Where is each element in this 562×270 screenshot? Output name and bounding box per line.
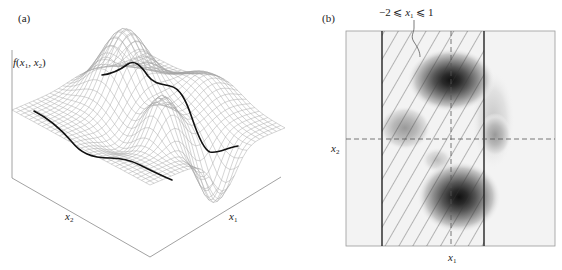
hatched-band [382, 31, 484, 246]
surface-plot-graphic [0, 0, 290, 270]
cross-section-curves [34, 63, 238, 181]
constraint-pre: −2 ⩽ [379, 6, 405, 18]
x2-sub-b: 2 [336, 148, 340, 156]
panel-b-tag: (b) [322, 13, 335, 24]
x1-sub-b: 1 [453, 257, 457, 265]
x1-axis-label-a: x1 [229, 211, 237, 224]
panel-a-surface-plot: (a) f(x1, x2) x2 x1 [0, 0, 290, 270]
z-label-close: ) [42, 56, 46, 68]
panel-b-contour-plot: (b) −2 ⩽ x1 ⩽ 1 x2 x1 [280, 0, 562, 270]
wireframe-mesh [12, 29, 285, 203]
x2-sub: 2 [70, 216, 74, 224]
x2-axis-label-a: x2 [65, 211, 73, 224]
x1-sub: 1 [234, 216, 238, 224]
constraint-post: ⩽ 1 [414, 6, 434, 18]
z-axis-label: f(x1, x2) [13, 57, 46, 70]
x2-axis-label-b: x2 [331, 143, 339, 156]
constraint-label: −2 ⩽ x1 ⩽ 1 [379, 7, 434, 20]
panel-a-tag: (a) [18, 13, 30, 24]
x1-axis-label-b: x1 [448, 252, 456, 265]
contour-plot-graphic [280, 0, 562, 270]
